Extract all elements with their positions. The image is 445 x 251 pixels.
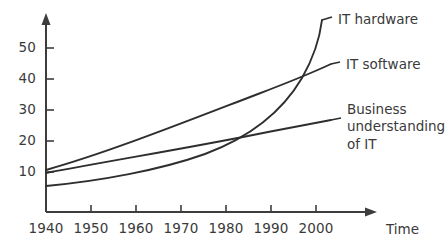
x-tick-label-1960: 1960 xyxy=(113,222,159,236)
y-tick-label-50: 50 xyxy=(8,41,36,55)
x-tick-label-2000: 2000 xyxy=(293,222,339,236)
y-tick-label-10: 10 xyxy=(8,165,36,179)
y-tick-label-40: 40 xyxy=(8,72,36,86)
series-label-business-line1: Business xyxy=(347,101,445,118)
x-tick-label-1970: 1970 xyxy=(158,222,204,236)
leader-line-business-understanding xyxy=(331,118,341,120)
y-axis-arrow-icon xyxy=(42,13,51,25)
x-axis-arrow-icon xyxy=(365,208,377,217)
series-line-it-hardware xyxy=(46,20,322,186)
y-tick-label-30: 30 xyxy=(8,103,36,117)
y-tick-label-20: 20 xyxy=(8,134,36,148)
series-label-business-line3: of IT xyxy=(347,136,445,153)
series-line-business-understanding xyxy=(46,120,331,173)
series-line-it-software xyxy=(46,64,331,170)
x-tick-label-1990: 1990 xyxy=(248,222,294,236)
x-tick-label-1940: 1940 xyxy=(23,222,69,236)
series-label-it-hardware: IT hardware xyxy=(338,11,418,28)
leader-line-it-hardware xyxy=(322,17,332,20)
series-label-business-line2: understanding xyxy=(347,118,445,135)
x-tick-label-1980: 1980 xyxy=(203,222,249,236)
x-tick-label-1950: 1950 xyxy=(68,222,114,236)
x-axis-title: Time xyxy=(386,223,419,237)
series-label-business-understanding: Business understanding of IT xyxy=(347,101,445,153)
series-label-it-software: IT software xyxy=(346,56,421,73)
leader-line-it-software xyxy=(331,62,340,64)
